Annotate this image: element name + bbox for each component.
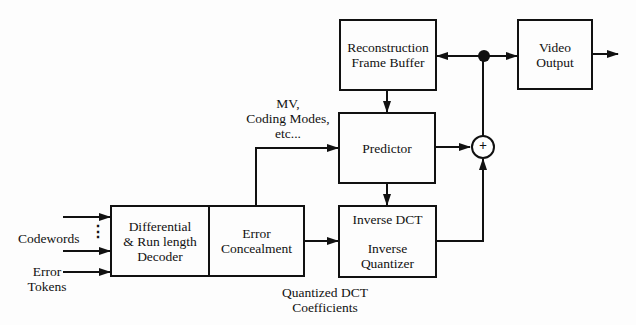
junction-dot [478,50,490,62]
label-line: Tokens [22,279,72,294]
block-label: Output [536,55,574,70]
label-line: MV, [242,96,334,111]
predictor-block: Predictor [338,112,436,184]
block-label: Concealment [221,241,292,256]
block-label: Differential [129,219,192,234]
block-label: Predictor [362,141,412,156]
ellipsis-dots-icon: ⋮ [90,224,106,239]
quantized-dct-label: Quantized DCT Coefficients [275,285,375,315]
reconstruction-frame-buffer-block: Reconstruction Frame Buffer [339,19,437,91]
label-line: Coefficients [275,300,375,315]
decoder-block-diagram: + Reconstruction Frame Buffer Video Outp… [0,0,636,325]
block-label: Quantizer [361,256,414,271]
block-label: Frame Buffer [352,55,425,70]
block-label: Inverse [368,241,408,256]
adder-plus-icon: + [476,138,490,153]
block-label: Inverse DCT [352,212,422,227]
block-label: & Run length [123,234,197,249]
block-label: Error [242,226,270,241]
error-tokens-label: Error Tokens [22,264,72,294]
mv-arrow [256,148,338,206]
codewords-label: Codewords [18,231,80,246]
inverse-dct-quantizer-block: Inverse DCT Inverse Quantizer [338,205,437,278]
block-label: Decoder [137,249,183,264]
video-output-block: Video Output [517,19,593,90]
error-concealment-block: Error Concealment [208,205,305,277]
label-line: Quantized DCT [275,285,375,300]
block-label: Reconstruction [347,40,429,55]
label-line: Coding Modes, [242,111,334,126]
idct-to-adder-arrow [436,159,483,241]
mv-coding-modes-label: MV, Coding Modes, etc... [242,96,334,141]
label-line: Error [22,264,72,279]
differential-run-length-decoder-block: Differential & Run length Decoder [110,205,210,277]
block-label: Video [539,40,571,55]
label-line: etc... [242,126,334,141]
